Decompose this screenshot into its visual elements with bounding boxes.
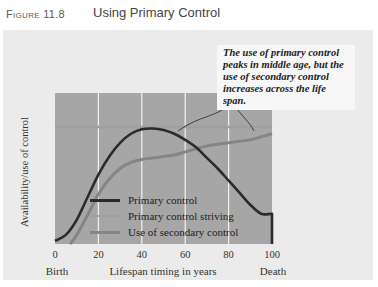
x-end-label: Death [260,265,286,277]
legend-item: Primary control [90,192,238,208]
legend-label: Primary control [128,194,197,206]
line-chart [0,0,378,287]
y-axis-label: Availability/use of control [19,97,33,247]
x-tick-label-100: 100 [264,249,280,260]
x-tick-label-20: 20 [93,249,104,260]
legend-swatch [90,215,120,217]
x-axis-label: Lifespan timing in years [109,265,216,277]
x-tick-label-80: 80 [223,249,234,260]
legend: Primary controlPrimary control strivingU… [90,192,238,240]
legend-swatch [90,231,120,234]
x-tick-label-0: 0 [52,249,57,260]
legend-item: Use of secondary control [90,224,238,240]
legend-swatch [90,199,120,202]
x-start-label: Birth [46,265,69,277]
legend-item: Primary control striving [90,208,238,224]
x-tick-label-60: 60 [180,249,191,260]
legend-label: Primary control striving [128,210,234,222]
x-tick-label-40: 40 [137,249,148,260]
annotation-callout: The use of primary control peaks in midd… [217,45,355,110]
legend-label: Use of secondary control [128,226,238,238]
